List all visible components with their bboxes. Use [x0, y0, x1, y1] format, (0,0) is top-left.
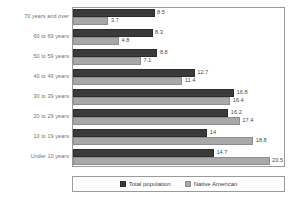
category-label: 70 years and over [1, 14, 69, 19]
category-label: Under 10 years [1, 154, 69, 159]
chart-row: Under 10 years 14.7 20.5 [0, 147, 305, 167]
bar-row-native: 18.8 [73, 137, 305, 145]
bar-row-native: 17.4 [73, 117, 305, 125]
chart-row: 20 to 29 years 16.2 17.4 [0, 107, 305, 127]
bar-group: 8.8 7.1 [73, 48, 305, 66]
category-label: 30 to 39 years [1, 94, 69, 99]
bar-row-total: 8.3 [73, 29, 305, 37]
bar-total-population [73, 9, 155, 17]
chart-rows: 70 years and over 8.5 3.7 60 to 69 years… [0, 7, 305, 167]
chart-row: 30 to 39 years 16.8 16.4 [0, 87, 305, 107]
bar-native-american [73, 137, 253, 145]
bar-row-total: 12.7 [73, 69, 305, 77]
bar-value-label: 7.1 [141, 58, 151, 64]
bar-total-population [73, 49, 157, 57]
bar-value-label: 20.5 [270, 158, 283, 164]
bar-value-label: 16.2 [228, 110, 241, 116]
bar-value-label: 8.3 [153, 30, 163, 36]
bar-group: 16.2 17.4 [73, 108, 305, 126]
bar-value-label: 14 [207, 130, 216, 136]
chart-legend: Total population Native American [72, 176, 285, 192]
bar-native-american [73, 117, 240, 125]
category-label: 60 to 69 years [1, 34, 69, 39]
bar-value-label: 16.8 [234, 90, 247, 96]
bar-row-native: 16.4 [73, 97, 305, 105]
bar-row-total: 16.8 [73, 89, 305, 97]
bar-group: 16.8 16.4 [73, 88, 305, 106]
bar-total-population [73, 89, 234, 97]
legend-swatch-icon [185, 181, 191, 187]
bar-native-american [73, 17, 108, 25]
bar-value-label: 11.4 [182, 78, 195, 84]
bar-group: 14.7 20.5 [73, 148, 305, 166]
bar-row-total: 8.5 [73, 9, 305, 17]
bar-value-label: 4.8 [119, 38, 129, 44]
bar-total-population [73, 109, 228, 117]
category-label: 50 to 59 years [1, 54, 69, 59]
bar-total-population [73, 149, 214, 157]
bar-value-label: 3.7 [108, 18, 118, 24]
bar-native-american [73, 77, 182, 85]
bar-native-american [73, 37, 119, 45]
bar-total-population [73, 69, 195, 77]
bar-value-label: 14.7 [214, 150, 227, 156]
bar-row-total: 8.8 [73, 49, 305, 57]
bar-value-label: 12.7 [195, 70, 208, 76]
bar-value-label: 8.8 [157, 50, 167, 56]
bar-value-label: 18.8 [253, 138, 266, 144]
chart-row: 10 to 19 years 14 18.8 [0, 127, 305, 147]
bar-native-american [73, 157, 270, 165]
chart-row: 40 to 49 years 12.7 11.4 [0, 67, 305, 87]
bar-row-total: 14 [73, 129, 305, 137]
bar-row-native: 7.1 [73, 57, 305, 65]
bar-group: 8.3 4.8 [73, 28, 305, 46]
category-label: 20 to 29 years [1, 114, 69, 119]
bar-row-native: 20.5 [73, 157, 305, 165]
bar-row-native: 4.8 [73, 37, 305, 45]
bar-row-total: 16.2 [73, 109, 305, 117]
legend-swatch-icon [120, 181, 126, 187]
bar-total-population [73, 129, 207, 137]
bar-group: 8.5 3.7 [73, 8, 305, 26]
bar-group: 14 18.8 [73, 128, 305, 146]
chart-row: 70 years and over 8.5 3.7 [0, 7, 305, 27]
bar-chart: 70 years and over 8.5 3.7 60 to 69 years… [0, 0, 305, 201]
legend-label: Total population [129, 181, 171, 187]
chart-row: 60 to 69 years 8.3 4.8 [0, 27, 305, 47]
chart-row: 50 to 59 years 8.8 7.1 [0, 47, 305, 67]
bar-row-native: 3.7 [73, 17, 305, 25]
category-label: 10 to 19 years [1, 134, 69, 139]
bar-group: 12.7 11.4 [73, 68, 305, 86]
bar-value-label: 16.4 [230, 98, 243, 104]
bar-row-native: 11.4 [73, 77, 305, 85]
bar-row-total: 14.7 [73, 149, 305, 157]
bar-native-american [73, 57, 141, 65]
bar-total-population [73, 29, 153, 37]
bar-native-american [73, 97, 230, 105]
bar-value-label: 17.4 [240, 118, 253, 124]
bar-value-label: 8.5 [155, 10, 165, 16]
legend-item-total-population: Total population [120, 181, 171, 187]
legend-item-native-american: Native American [185, 181, 238, 187]
category-label: 40 to 49 years [1, 74, 69, 79]
legend-label: Native American [194, 181, 238, 187]
